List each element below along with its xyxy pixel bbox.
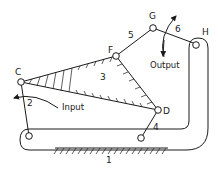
output-arrow-icon [163, 16, 177, 57]
label-d: D [163, 106, 170, 116]
link-5 [116, 28, 153, 56]
ground-pivot-crank [26, 133, 33, 140]
joint-h [193, 42, 200, 49]
label-c: C [15, 67, 21, 77]
label-h: H [202, 27, 209, 37]
label-link-6: 6 [175, 24, 181, 34]
label-link-3: 3 [100, 72, 106, 82]
coupler-link-3 [21, 56, 158, 110]
joint-g [150, 25, 157, 32]
linkage-diagram: C F D G H 1 2 3 4 5 6 Input Output [0, 0, 218, 169]
label-g: G [149, 11, 156, 21]
input-crank-link-2 [21, 82, 29, 136]
joint-d [155, 107, 162, 114]
input-arrow-icon [14, 96, 58, 108]
joint-f [113, 53, 120, 60]
ground-hatch [54, 148, 168, 154]
label-link-4: 4 [153, 122, 159, 132]
label-input: Input [62, 102, 85, 112]
label-link-2: 2 [27, 98, 33, 108]
joint-c [18, 79, 25, 86]
label-link-5: 5 [128, 30, 134, 40]
label-output: Output [150, 60, 180, 70]
ground-pivot-rocker [138, 135, 145, 142]
label-link-1: 1 [106, 155, 112, 165]
label-f: F [108, 45, 113, 55]
